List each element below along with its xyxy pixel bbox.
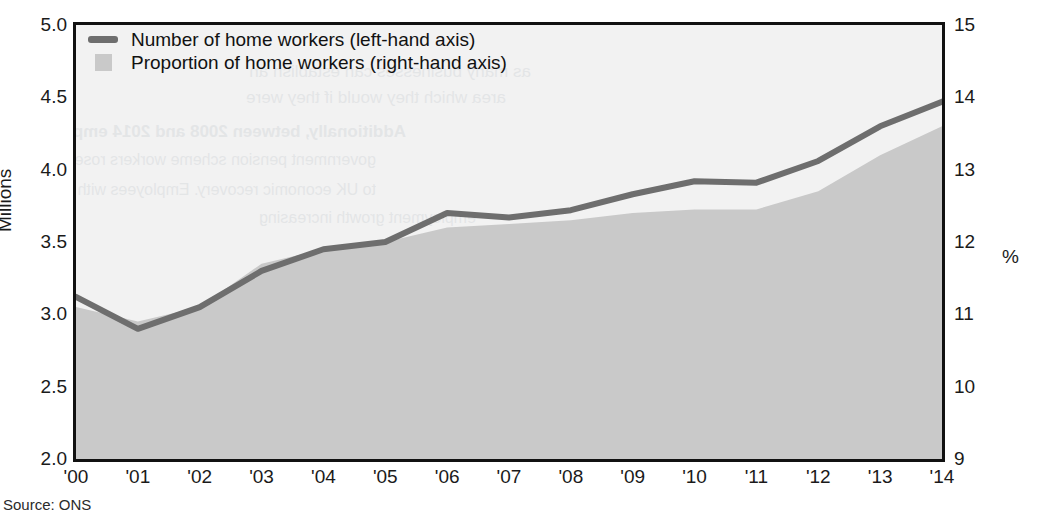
x-axis-tick-label: '13: [868, 466, 893, 488]
right-axis-tick-label: 12: [954, 231, 975, 253]
proportion-area-series: [76, 126, 942, 459]
plot-svg: as many businesses can establish anarea …: [76, 25, 942, 459]
left-axis-tick-label: 3.0: [41, 303, 67, 325]
x-axis-tick-label: '11: [745, 466, 768, 488]
left-axis-tick-label: 5.0: [41, 14, 67, 36]
left-axis-tick-labels: 2.02.53.03.54.04.55.0: [0, 0, 67, 526]
x-axis-tick-labels: '00'01'02'03'04'05'06'07'08'09'10'11'12'…: [73, 466, 945, 496]
x-axis-tick-label: '09: [620, 466, 645, 488]
x-axis-tick-label: '07: [497, 466, 522, 488]
legend-label: Proportion of home workers (right-hand a…: [131, 52, 507, 74]
legend-item-proportion-of-home-workers: Proportion of home workers (right-hand a…: [88, 51, 507, 74]
right-axis-tick-label: 11: [954, 303, 974, 325]
right-axis-tick-label: 13: [954, 159, 975, 181]
x-axis-tick-label: '06: [435, 466, 460, 488]
plot-area: as many businesses can establish anarea …: [73, 22, 945, 462]
right-axis-tick-label: 9: [954, 448, 965, 470]
x-axis-tick-label: '08: [558, 466, 583, 488]
legend-item-number-of-home-workers: Number of home workers (left-hand axis): [88, 28, 507, 51]
right-axis-tick-label: 10: [954, 376, 975, 398]
source-note: Source: ONS: [3, 496, 91, 513]
right-axis-title: %: [1002, 246, 1019, 268]
left-axis-tick-label: 4.5: [41, 86, 67, 108]
right-axis-tick-label: 15: [954, 14, 975, 36]
showthrough-ghost-text: Additionally, between 2008 and 2014 empl…: [76, 122, 406, 141]
x-axis-tick-label: '12: [806, 466, 831, 488]
x-axis-tick-label: '02: [187, 466, 212, 488]
showthrough-ghost-text: area which they would if they were: [246, 88, 506, 107]
showthrough-ghost-text: government pension scheme workers rose, …: [76, 151, 376, 168]
x-axis-tick-label: '00: [64, 466, 89, 488]
left-axis-tick-label: 2.5: [41, 376, 67, 398]
chart-legend: Number of home workers (left-hand axis) …: [88, 28, 507, 74]
x-axis-tick-label: '10: [682, 466, 707, 488]
showthrough-ghost-text: to UK economic recovery. Employees with …: [76, 181, 376, 198]
x-axis-tick-label: '14: [930, 466, 955, 488]
chart-figure: 2.02.53.03.54.04.55.0 9101112131415 Mill…: [0, 0, 1050, 526]
left-axis-tick-label: 3.5: [41, 231, 67, 253]
x-axis-tick-label: '04: [311, 466, 336, 488]
left-axis-tick-label: 4.0: [41, 159, 67, 181]
left-axis-title: Millions: [0, 169, 16, 232]
x-axis-tick-label: '01: [125, 466, 150, 488]
right-axis-tick-label: 14: [954, 86, 975, 108]
legend-square-swatch-icon: [95, 54, 112, 71]
legend-line-swatch-icon: [88, 36, 118, 43]
legend-label: Number of home workers (left-hand axis): [131, 29, 475, 51]
x-axis-tick-label: '05: [373, 466, 398, 488]
x-axis-tick-label: '03: [249, 466, 274, 488]
